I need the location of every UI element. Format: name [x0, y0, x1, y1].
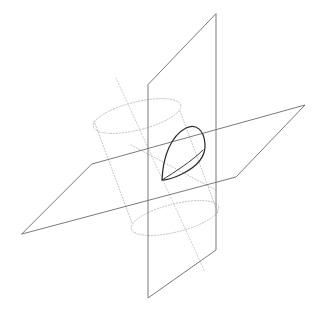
cylinder-left-side-line — [94, 121, 132, 223]
intersection-curve-chord — [162, 150, 203, 180]
cylinder-group — [90, 78, 222, 272]
geometry-illustration-svg — [0, 0, 321, 316]
cylinder-axis-line — [116, 78, 205, 272]
vertical-plane-group — [148, 14, 216, 298]
cylinder-secondary-axis-line — [131, 145, 216, 190]
cylinder-top-ellipse — [90, 92, 184, 141]
vertical-plane-outline — [148, 14, 216, 298]
cylinder-bottom-ellipse — [128, 194, 222, 243]
figure-canvas — [0, 0, 321, 316]
